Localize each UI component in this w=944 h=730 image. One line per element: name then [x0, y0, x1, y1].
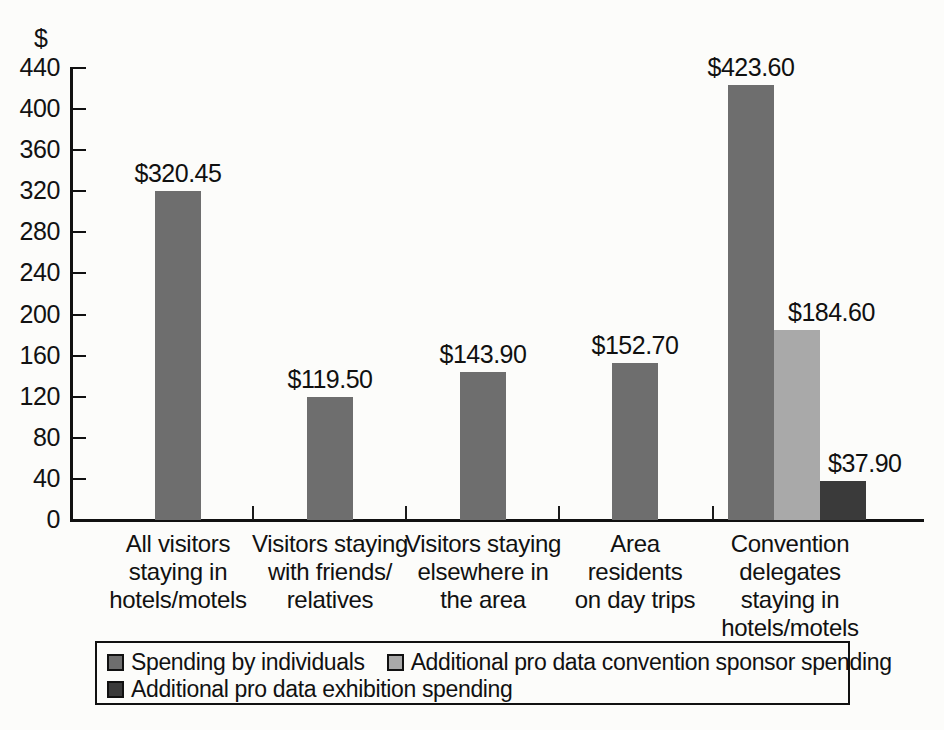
bar-chart: $ 44040036032028024020016012080400 $320.…	[0, 0, 944, 730]
x-axis-category-label-line: staying in	[690, 586, 890, 614]
bar	[612, 363, 658, 520]
x-axis-category-label: Conventiondelegatesstaying inhotels/mote…	[690, 530, 890, 642]
legend: Spending by individuals Additional pro d…	[95, 641, 850, 705]
bar-value-label: $152.70	[560, 333, 710, 358]
y-axis-tick-label: 280	[0, 219, 60, 244]
y-axis-unit-label: $	[34, 26, 48, 51]
bar-value-label: $119.50	[255, 367, 405, 392]
legend-row-2: Additional pro data exhibition spending	[107, 676, 838, 703]
bar-value-label: $37.90	[828, 451, 944, 476]
legend-label: Spending by individuals	[131, 651, 365, 674]
x-axis-category-label-line: delegates	[690, 558, 890, 586]
y-axis-tick-label: 160	[0, 343, 60, 368]
bar	[774, 330, 820, 520]
legend-label: Additional pro data convention sponsor s…	[411, 651, 892, 674]
legend-item-exhibition-spending[interactable]: Additional pro data exhibition spending	[107, 678, 512, 701]
x-axis-category-label-line: hotels/motels	[690, 614, 890, 642]
bar	[820, 481, 866, 520]
x-axis-category-label-line: Convention	[690, 530, 890, 558]
bar-value-label: $184.60	[788, 300, 938, 325]
legend-swatch-icon	[107, 681, 124, 698]
y-axis-tick-label: 240	[0, 260, 60, 285]
legend-item-convention-sponsor-spending[interactable]: Additional pro data convention sponsor s…	[387, 651, 892, 674]
y-axis-tick-label: 360	[0, 137, 60, 162]
y-axis-tick-label: 40	[0, 466, 60, 491]
y-axis-tick-label: 400	[0, 96, 60, 121]
y-axis-tick-label: 440	[0, 55, 60, 80]
legend-item-spending-by-individuals[interactable]: Spending by individuals	[107, 651, 365, 674]
bar-value-label: $423.60	[676, 55, 826, 80]
y-axis-tick-label: 0	[0, 507, 60, 532]
y-axis-tick-label: 320	[0, 178, 60, 203]
bar	[307, 397, 353, 520]
bar-value-label: $143.90	[408, 342, 558, 367]
bar	[460, 372, 506, 520]
legend-swatch-icon	[107, 654, 124, 671]
bars-layer	[72, 68, 924, 520]
y-axis-tick-label: 200	[0, 302, 60, 327]
bar	[728, 85, 774, 520]
y-axis-tick-label: 120	[0, 384, 60, 409]
legend-label: Additional pro data exhibition spending	[131, 678, 512, 701]
legend-row-1: Spending by individuals Additional pro d…	[107, 649, 838, 676]
bar	[155, 191, 201, 520]
legend-swatch-icon	[387, 654, 404, 671]
bar-value-label: $320.45	[103, 161, 253, 186]
y-axis-tick-label: 80	[0, 425, 60, 450]
